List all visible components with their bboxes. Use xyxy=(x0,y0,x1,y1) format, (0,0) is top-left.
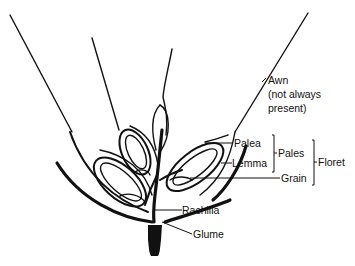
glume-leader xyxy=(162,222,192,234)
floret-label: Floret xyxy=(318,156,345,168)
glume-base xyxy=(148,225,162,256)
right-floret-inner xyxy=(168,143,222,190)
left-inner-awn xyxy=(92,38,119,130)
left-outer-awn xyxy=(10,15,72,132)
awn-label-line3: present) xyxy=(268,102,307,114)
lemma-label: Lemma xyxy=(232,157,267,169)
grain-label: Grain xyxy=(281,172,307,184)
right-awn xyxy=(235,13,308,132)
pales-bracket xyxy=(272,135,277,172)
right-floret-outer xyxy=(159,134,231,200)
palea-label: Palea xyxy=(234,137,261,149)
mid-left-floret-outer xyxy=(113,125,157,179)
rachilla-label: Rachilla xyxy=(182,204,220,216)
spikelet-diagram: Awn (not always present) Palea Lemma Pal… xyxy=(0,0,355,266)
glume-label: Glume xyxy=(193,228,224,240)
pales-label: Pales xyxy=(278,147,304,159)
top-floret-palea xyxy=(153,105,160,150)
left-glume-curve xyxy=(57,163,152,222)
awn-label: Awn xyxy=(268,74,288,86)
floret-bracket xyxy=(312,140,317,185)
awn-label-line2: (not always xyxy=(268,88,321,100)
right-floret-bristle xyxy=(205,135,228,142)
